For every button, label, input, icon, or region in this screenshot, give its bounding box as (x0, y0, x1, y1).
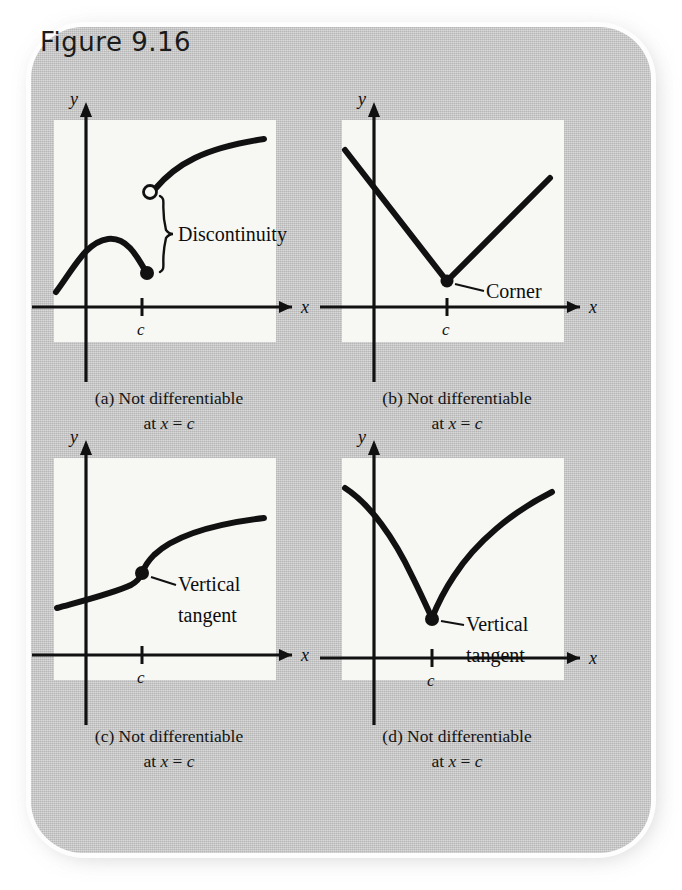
panel-b-y-axis-arrow (368, 102, 380, 117)
panel-d-caption-line2: at x = c (312, 749, 602, 774)
panel-d-x-axis-arrow (567, 652, 580, 664)
panel-a-closed-endpoint (140, 266, 154, 280)
panel-c-y-axis-arrow (80, 440, 92, 455)
panel-d-tick-label-c: c (427, 671, 435, 690)
panel-a-y-axis-arrow (80, 102, 92, 117)
panel-c-vertical-tangent-point (135, 566, 149, 580)
panel-b-y-axis-label: y (356, 89, 366, 109)
panel-d-y-axis-label: y (356, 427, 366, 447)
panel-a-y-axis-label: y (68, 89, 78, 109)
panel-a-x-axis-label: x (300, 297, 309, 317)
panel-c-annotation-line2: tangent (178, 604, 237, 627)
figure-page: Figure 9.16 x y c Discontinuity (a) N (0, 0, 682, 890)
panel-d-annotation-line2: tangent (466, 644, 525, 667)
panel-b-annotation-corner: Corner (486, 280, 542, 302)
panel-a-discontinuity: x y c Discontinuity (24, 92, 314, 392)
panel-a-x-axis-arrow (279, 301, 292, 313)
panel-c-caption: (c) Not differentiable at x = c (24, 724, 314, 775)
panel-b-x-axis-arrow (567, 301, 580, 313)
panel-a-annotation-discontinuity: Discontinuity (178, 223, 287, 246)
panel-d-annotation-line1: Vertical (466, 613, 529, 635)
panel-c-x-axis-arrow (279, 649, 292, 661)
panel-d-caption: (d) Not differentiable at x = c (312, 724, 602, 775)
panel-b-x-axis-label: x (588, 297, 597, 317)
panel-c-x-axis-label: x (300, 645, 309, 665)
panel-b-corner: x y c Corner (312, 92, 602, 392)
panel-a-caption-line1: (a) Not differentiable (95, 388, 243, 408)
panel-b-caption-line1: (b) Not differentiable (382, 388, 531, 408)
panel-c-vertical-tangent-inflection: x y c Vertical tangent (24, 430, 314, 730)
panel-c-caption-line1: (c) Not differentiable (95, 726, 243, 746)
panel-a-open-endpoint (144, 186, 157, 199)
panel-d-vertical-tangent-cusp: x y c Vertical tangent (312, 430, 602, 730)
panel-b-tick-label-c: c (442, 320, 450, 339)
panel-c-caption-line2: at x = c (24, 749, 314, 774)
panel-c-tick-label-c: c (137, 668, 145, 687)
figure-title: Figure 9.16 (40, 27, 191, 57)
panel-d-y-axis-arrow (368, 440, 380, 455)
panel-a-tick-label-c: c (137, 320, 145, 339)
panel-d-caption-line1: (d) Not differentiable (382, 726, 531, 746)
panel-d-vertical-tangent-point (425, 612, 439, 626)
panel-b-corner-point (441, 275, 454, 288)
panel-c-y-axis-label: y (68, 427, 78, 447)
panel-c-annotation-line1: Vertical (178, 573, 241, 595)
panel-d-x-axis-label: x (588, 648, 597, 668)
